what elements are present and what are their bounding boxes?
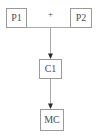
node-p1-label: P1 [11,13,22,23]
plus-operator: + [44,10,57,19]
block-diagram: P1 P2 + C1 MC [0,0,98,136]
node-mc-label: MC [44,115,60,125]
node-c1: C1 [39,59,62,79]
node-c1-label: C1 [45,64,57,74]
node-p2-label: P2 [76,13,87,23]
node-mc: MC [40,109,64,131]
node-p2: P2 [70,8,92,28]
node-p1: P1 [6,8,27,28]
